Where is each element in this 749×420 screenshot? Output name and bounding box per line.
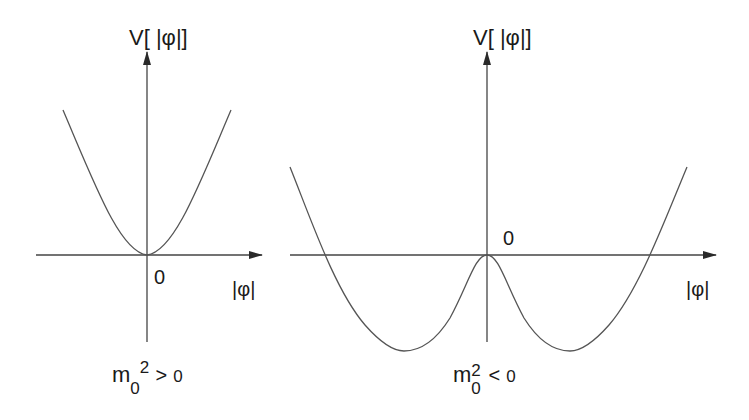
right-y-axis-label: V[ |φ|] (473, 27, 532, 49)
right-potential-curve (290, 167, 687, 351)
left-origin-label: 0 (154, 267, 165, 287)
relation-value: 0 (506, 367, 515, 386)
relation-symbol: < (488, 364, 500, 386)
mass-superscript: 2 (471, 362, 480, 379)
mass-symbol: m (112, 362, 130, 387)
relation-value: 0 (173, 367, 182, 386)
potential-figure: V[ |φ|] 0 |φ| m02 > 0 V[ |φ|] 0 |φ| m20 … (0, 0, 749, 420)
plots-canvas (0, 0, 749, 420)
mass-indices: 20 (471, 364, 482, 386)
mass-subscript: 0 (130, 379, 139, 398)
left-panel (36, 52, 262, 342)
mass-subscript: 0 (471, 380, 480, 397)
right-origin-label: 0 (503, 228, 514, 248)
left-y-axis-label: V[ |φ|] (129, 27, 188, 49)
right-condition-label: m20 < 0 (453, 364, 516, 386)
right-x-axis-label: |φ| (686, 279, 709, 299)
left-x-axis-label: |φ| (232, 279, 255, 299)
right-panel (290, 52, 716, 351)
left-condition-label: m02 > 0 (112, 364, 183, 386)
relation-symbol: > (155, 364, 167, 386)
mass-symbol: m (453, 362, 471, 387)
mass-superscript: 2 (140, 358, 149, 377)
